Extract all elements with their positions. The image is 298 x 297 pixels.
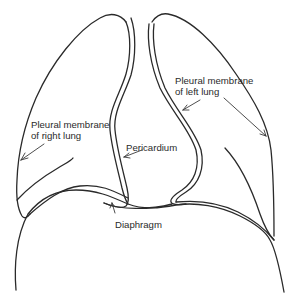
label-right-lung-line2: of right lung <box>31 130 109 141</box>
label-diaphragm: Diaphragm <box>115 219 162 230</box>
label-left-lung-line2: of left lung <box>175 86 253 97</box>
left-lung-leader-inner <box>183 100 200 110</box>
right-lung-leader <box>21 144 44 160</box>
lung-diagram: Pleural membrane of right lung Pericardi… <box>0 0 298 297</box>
leader-lines <box>21 98 266 213</box>
left-lung-leader-outer <box>224 98 266 136</box>
label-right-lung: Pleural membrane of right lung <box>31 119 109 141</box>
label-pericardium: Pericardium <box>126 142 177 153</box>
label-right-lung-line1: Pleural membrane <box>31 119 109 130</box>
label-left-lung-line1: Pleural membrane <box>175 75 253 86</box>
diaphragm-outline <box>15 186 284 292</box>
arrowhead-icon <box>21 153 28 160</box>
label-left-lung: Pleural membrane of left lung <box>175 75 253 97</box>
